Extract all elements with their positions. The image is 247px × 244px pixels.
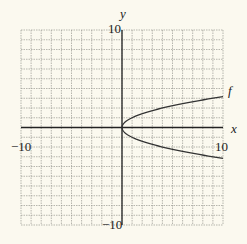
y-axis-label: y xyxy=(118,6,126,21)
curve-label-f: f xyxy=(228,83,234,98)
x-min-tick-label: −10 xyxy=(11,139,31,154)
y-min-tick-label: −10 xyxy=(102,217,122,232)
y-max-tick-label: 10 xyxy=(108,21,121,36)
x-axis-label: x xyxy=(230,121,237,136)
x-max-tick-label: 10 xyxy=(215,139,228,154)
graph: y 10 −10 −10 10 x f xyxy=(0,0,247,244)
